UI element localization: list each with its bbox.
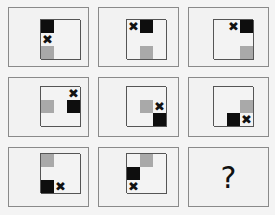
grid-cell (41, 180, 55, 194)
grid-cell (67, 33, 81, 47)
grid-cell (127, 100, 141, 114)
grid-cell: ✖ (127, 20, 141, 34)
grid-3x3: ✖ (40, 19, 80, 59)
grid-cell (41, 154, 55, 168)
grid-cell (67, 167, 81, 181)
grid-3x3: ✖ (40, 153, 80, 193)
x-mark-icon: ✖ (154, 100, 165, 113)
grid-cell (67, 46, 81, 60)
grid-cell (41, 87, 55, 101)
grid-cell (140, 180, 154, 194)
grid-cell (140, 33, 154, 47)
x-mark-icon: ✖ (241, 113, 252, 126)
grid-cell (153, 113, 167, 127)
grid-cell (240, 20, 254, 34)
puzzle-panel-3: ✖ (188, 7, 269, 67)
grid-cell: ✖ (54, 180, 68, 194)
grid-cell (140, 20, 154, 34)
grid-cell (153, 180, 167, 194)
grid-cell (214, 33, 228, 47)
grid-cell (227, 46, 241, 60)
grid-cell (67, 180, 81, 194)
grid-cell: ✖ (67, 87, 81, 101)
grid-cell (67, 154, 81, 168)
grid-3x3: ✖ (213, 86, 253, 126)
grid-cell (41, 100, 55, 114)
grid-cell (153, 20, 167, 34)
grid-3x3: ✖ (126, 86, 166, 126)
grid-cell (140, 87, 154, 101)
grid-cell: ✖ (227, 20, 241, 34)
grid-cell (127, 87, 141, 101)
grid-cell (227, 113, 241, 127)
grid-cell (153, 33, 167, 47)
grid-cell (214, 100, 228, 114)
grid-cell (227, 100, 241, 114)
grid-3x3: ✖ (40, 86, 80, 126)
puzzle-panel-8: ✖ (98, 147, 179, 207)
answer-panel[interactable]: ? (188, 147, 269, 207)
x-mark-icon: ✖ (68, 87, 79, 100)
grid-cell (227, 87, 241, 101)
grid-cell (41, 167, 55, 181)
grid-cell (153, 154, 167, 168)
grid-cell (54, 46, 68, 60)
grid-3x3: ✖ (213, 19, 253, 59)
puzzle-panel-5: ✖ (98, 77, 179, 137)
grid-3x3: ✖ (126, 153, 166, 193)
grid-cell: ✖ (240, 113, 254, 127)
puzzle-panel-2: ✖ (98, 7, 179, 67)
grid-cell (240, 46, 254, 60)
grid-cell (54, 100, 68, 114)
grid-cell (127, 33, 141, 47)
grid-cell (67, 100, 81, 114)
grid-cell (153, 167, 167, 181)
grid-cell (41, 46, 55, 60)
grid-cell: ✖ (153, 100, 167, 114)
grid-cell (54, 154, 68, 168)
grid-cell (54, 87, 68, 101)
puzzle-panel-6: ✖ (188, 77, 269, 137)
grid-cell (67, 113, 81, 127)
grid-cell (140, 113, 154, 127)
question-mark: ? (189, 160, 268, 195)
grid-cell (240, 87, 254, 101)
grid-cell: ✖ (41, 33, 55, 47)
grid-cell (240, 33, 254, 47)
puzzle-panel-4: ✖ (8, 77, 89, 137)
grid-cell (41, 113, 55, 127)
grid-cell: ✖ (127, 180, 141, 194)
grid-cell (127, 113, 141, 127)
puzzle-panel-1: ✖ (8, 7, 89, 67)
grid-cell (140, 100, 154, 114)
grid-cell (54, 33, 68, 47)
grid-cell (54, 20, 68, 34)
grid-cell (54, 113, 68, 127)
grid-cell (140, 154, 154, 168)
x-mark-icon: ✖ (128, 180, 139, 193)
grid-cell (214, 46, 228, 60)
grid-cell (127, 154, 141, 168)
grid-cell (140, 46, 154, 60)
puzzle-panel-7: ✖ (8, 147, 89, 207)
grid-cell (140, 167, 154, 181)
grid-cell (67, 20, 81, 34)
x-mark-icon: ✖ (228, 20, 239, 33)
grid-cell (127, 46, 141, 60)
grid-cell (153, 46, 167, 60)
grid-cell (214, 113, 228, 127)
x-mark-icon: ✖ (55, 180, 66, 193)
grid-cell (214, 87, 228, 101)
x-mark-icon: ✖ (42, 33, 53, 46)
grid-cell (227, 33, 241, 47)
grid-3x3: ✖ (126, 19, 166, 59)
x-mark-icon: ✖ (128, 20, 139, 33)
grid-cell (214, 20, 228, 34)
